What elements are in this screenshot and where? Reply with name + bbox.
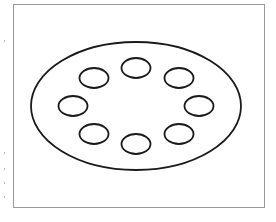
inner-ellipse-lower-right (165, 124, 194, 144)
inner-ellipse-left (59, 96, 88, 116)
inner-ellipse-upper-left (80, 68, 109, 88)
inner-ellipse-upper-right (165, 68, 194, 88)
ellipse-ring-diagram (0, 0, 276, 222)
inner-ellipse-group (59, 58, 214, 154)
outer-ellipse (31, 42, 241, 170)
inner-ellipse-bottom (122, 134, 151, 154)
inner-ellipse-right (185, 96, 214, 116)
inner-ellipse-top (122, 58, 151, 78)
diagram-canvas (0, 0, 276, 222)
inner-ellipse-lower-left (80, 124, 109, 144)
